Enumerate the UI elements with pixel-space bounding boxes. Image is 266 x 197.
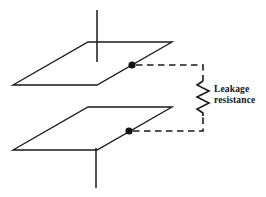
leakage-resistor-symbol xyxy=(197,81,209,116)
upper-dashed-wire xyxy=(136,65,203,81)
leakage-label-line2: resistance xyxy=(214,95,255,105)
lower-capacitor-plate xyxy=(13,107,172,150)
capacitor-leakage-diagram: Leakage resistance xyxy=(0,0,266,197)
upper-capacitor-plate xyxy=(13,42,172,85)
leakage-label-line1: Leakage xyxy=(214,84,249,94)
upper-contact-node-dot xyxy=(128,61,135,68)
diagram-canvas: Leakage resistance xyxy=(0,0,266,197)
lower-contact-node-dot xyxy=(125,127,132,134)
